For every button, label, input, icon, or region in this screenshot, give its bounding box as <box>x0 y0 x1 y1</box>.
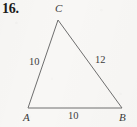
vertex-label-a: A <box>23 112 30 123</box>
side-length-cb: 12 <box>95 55 106 66</box>
vertex-label-b: B <box>119 112 126 123</box>
geometry-figure: 16. C A B 10 12 10 <box>0 0 137 127</box>
vertex-label-c: C <box>55 3 62 14</box>
side-length-ab: 10 <box>68 111 79 122</box>
side-length-ac: 10 <box>29 57 40 68</box>
triangle-outline <box>28 20 122 108</box>
triangle-drawing <box>0 0 137 127</box>
